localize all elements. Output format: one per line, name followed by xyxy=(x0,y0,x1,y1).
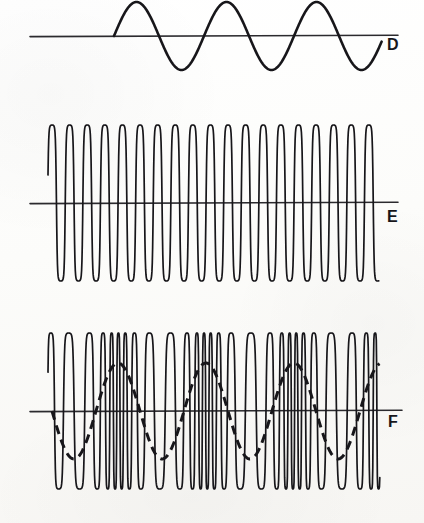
panel-label-f: F xyxy=(388,414,398,430)
panel-F xyxy=(30,333,402,489)
panel-label-e: E xyxy=(387,209,398,225)
panel-E xyxy=(30,125,398,281)
panel-D xyxy=(30,2,398,70)
waveform-figure: D E F xyxy=(0,0,424,523)
waveform-canvas xyxy=(0,0,424,523)
panel-label-d: D xyxy=(387,37,399,53)
baseline-axis-d xyxy=(30,35,398,36)
